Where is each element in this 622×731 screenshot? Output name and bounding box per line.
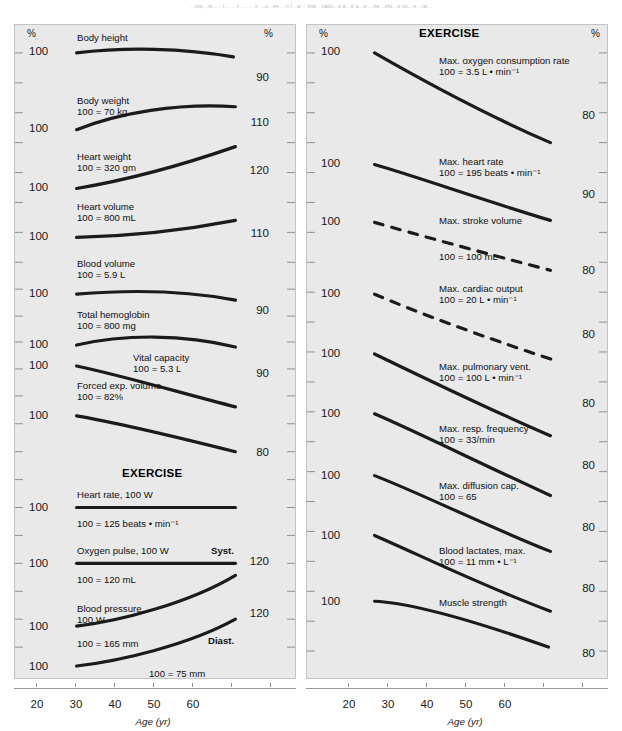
right-xtick-20: 20: [337, 698, 361, 710]
right-xaxis-title: Age (yr): [430, 716, 500, 727]
right-panel-pct-right: %: [591, 28, 600, 39]
left-right-tick-8: 120: [229, 608, 269, 620]
left-right-tick-5: 90: [229, 368, 269, 380]
right-plot-area: [307, 25, 607, 678]
right-xtick-50: 50: [454, 698, 478, 710]
right-right-tick-0: 80: [555, 110, 595, 122]
left-panel-pct-left: %: [27, 28, 36, 39]
left-tick-11: 100: [29, 661, 48, 673]
right-right-tick-7: 80: [555, 583, 595, 595]
label-max-resp-frequency: Max. resp. frequency 100 = 33/min: [439, 423, 529, 446]
right-tick-8: 100: [321, 596, 340, 608]
left-xtick-20: 20: [25, 698, 49, 710]
right-xtick-30: 30: [376, 698, 400, 710]
left-tick-8: 100: [29, 502, 48, 514]
left-right-tick-4: 90: [229, 305, 269, 317]
left-tick-6: 100: [29, 360, 48, 372]
right-right-tick-8: 80: [555, 648, 595, 660]
label-max-heart-rate: Max. heart rate 100 = 195 beats • min⁻¹: [439, 156, 540, 179]
right-tick-3: 100: [321, 288, 340, 300]
label-muscle-strength: Muscle strength: [439, 597, 507, 608]
left-tick-10: 100: [29, 621, 48, 633]
label-max-pulmonary-vent: Max. pulmonary vent. 100 = 100 L • min⁻¹: [439, 361, 531, 384]
label-forced-exp-volume: Forced exp. volume 100 = 82%: [77, 380, 161, 403]
figure-caption: …rep…nt……t… …v………e …u…es …n f…w …bse…vat…: [0, 0, 622, 12]
label-blood-lactates-max: Blood lactates, max. 100 = 11 mm • L⁻¹: [439, 545, 525, 568]
label-oxygen-pulse-100w-ref: 100 = 120 mL: [77, 574, 136, 585]
right-xaxis-rule: [306, 688, 608, 689]
right-section-heading-exercise: EXERCISE: [419, 27, 480, 39]
left-xtick-50: 50: [142, 698, 166, 710]
right-tick-1: 100: [321, 158, 340, 170]
right-tick-2: 100: [321, 216, 340, 228]
left-tick-9: 100: [29, 558, 48, 570]
right-right-tick-4: 80: [555, 398, 595, 410]
right-tick-0: 100: [321, 46, 340, 58]
curve-forced-exp-volume: [77, 416, 236, 452]
left-xaxis-title: Age (yr): [118, 716, 188, 727]
label-max-stroke-volume: Max. stroke volume: [439, 215, 522, 226]
curve-total-hemoglobin: [77, 337, 236, 347]
right-right-tick-6: 80: [555, 522, 595, 534]
annotation-diast: Diast.: [208, 635, 234, 646]
right-panel-pct-left: %: [319, 28, 328, 39]
label-max-cardiac-output: Max. cardiac output 100 = 20 L • min⁻¹: [439, 283, 523, 306]
curve-max-stroke-volume: [375, 222, 551, 270]
left-tick-7: 100: [29, 410, 48, 422]
label-blood-pressure-diast-ref: 100 = 75 mm: [149, 668, 205, 679]
label-oxygen-pulse-100w: Oxygen pulse, 100 W: [77, 545, 169, 556]
left-right-tick-2: 120: [229, 165, 269, 177]
left-right-tick-0: 90: [229, 72, 269, 84]
left-xtick-30: 30: [64, 698, 88, 710]
left-tick-3: 100: [29, 231, 48, 243]
curve-blood-volume: [77, 292, 236, 300]
right-right-tick-5: 80: [555, 460, 595, 472]
left-tick-1: 100: [29, 123, 48, 135]
right-tick-7: 100: [321, 530, 340, 542]
label-blood-volume: Blood volume 100 = 5.9 L: [77, 258, 135, 281]
curve-body-height: [77, 49, 234, 57]
left-right-tick-3: 110: [229, 228, 269, 240]
right-plot-svg: [307, 25, 607, 678]
right-tick-6: 100: [321, 470, 340, 482]
figure-root: …rep…nt……t… …v………e …u…es …n f…w …bse…vat…: [0, 0, 622, 731]
left-tick-4: 100: [29, 288, 48, 300]
left-chart-panel: % % 100 100 100 100 100 100 100 100 100 …: [14, 24, 296, 679]
label-body-weight: Body weight 100 = 70 kg: [77, 95, 129, 118]
left-right-tick-7: 120: [229, 556, 269, 568]
label-heart-rate-100w: Heart rate, 100 W: [77, 489, 153, 500]
right-right-tick-2: 80: [555, 265, 595, 277]
left-right-tick-1: 110: [229, 117, 269, 129]
left-tick-5: 100: [29, 339, 48, 351]
label-blood-pressure-syst-ref: 100 = 165 mm: [77, 638, 139, 649]
label-total-hemoglobin: Total hemoglobin 100 = 800 mg: [77, 309, 150, 332]
label-max-oxygen-consumption: Max. oxygen consumption rate 100 = 3.5 L…: [439, 55, 570, 78]
annotation-syst: Syst.: [211, 545, 234, 556]
right-tick-4: 100: [321, 348, 340, 360]
right-xtick-60: 60: [493, 698, 517, 710]
label-heart-volume: Heart volume 100 = 800 mL: [77, 201, 136, 224]
label-max-stroke-volume-ref: 100 = 100 mL: [439, 251, 498, 262]
right-chart-panel: % % EXERCISE 100 100 100 100 100 100 100…: [306, 24, 608, 679]
left-tick-2: 100: [29, 182, 48, 194]
right-right-tick-1: 90: [555, 189, 595, 201]
left-section-heading-exercise: EXERCISE: [122, 467, 183, 479]
left-xtick-60: 60: [181, 698, 205, 710]
label-body-height: Body height: [77, 32, 128, 43]
label-heart-rate-100w-ref: 100 = 125 beats • min⁻¹: [77, 518, 178, 529]
left-xtick-40: 40: [103, 698, 127, 710]
label-heart-weight: Heart weight 100 = 320 gm: [77, 151, 136, 174]
right-tick-5: 100: [321, 408, 340, 420]
left-panel-pct-right: %: [264, 28, 273, 39]
left-tick-0: 100: [29, 46, 48, 58]
right-xtick-40: 40: [415, 698, 439, 710]
right-right-tick-3: 80: [555, 329, 595, 341]
left-xaxis-rule: [14, 688, 296, 689]
label-max-diffusion-cap: Max. diffusion cap. 100 = 65: [439, 480, 519, 503]
left-right-tick-6: 80: [229, 447, 269, 459]
label-blood-pressure: Blood pressure, 100 W: [77, 603, 144, 626]
label-vital-capacity: Vital capacity 100 = 5.3 L: [133, 352, 189, 375]
